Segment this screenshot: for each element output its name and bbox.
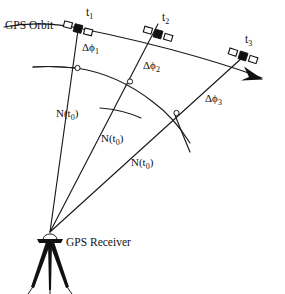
diagram-canvas: GPS Orbit t1 t2 t3 Δϕ1 Δϕ2 Δϕ3 N(t0) N(t…: [0, 0, 285, 294]
phase-label-1: Δϕ1: [82, 41, 99, 56]
gps-receiver-label: GPS Receiver: [66, 236, 131, 248]
range-ray-2: [50, 24, 158, 232]
wavefront-arc-1: [33, 66, 76, 68]
intersection-node-2: [127, 79, 132, 84]
intersection-node-1: [75, 65, 80, 70]
range-label-3: N(t0): [131, 156, 154, 171]
phase-label-3: Δϕ3: [205, 92, 222, 107]
wavefront-arc-2-tail: [100, 108, 141, 118]
wavefront-arc-3-tail: [175, 115, 190, 152]
satellite-icon-t3: [228, 48, 258, 64]
gps-orbit-arc: [4, 24, 262, 78]
satellite-icon-t2: [143, 26, 173, 41]
satellite-label-t3: t3: [245, 33, 252, 48]
range-label-2: N(t0): [101, 132, 124, 147]
orbit-direction-arrow-icon: [241, 67, 263, 81]
intersection-node-3: [174, 110, 179, 115]
gps-carrier-phase-diagram: GPS Orbit t1 t2 t3 Δϕ1 Δϕ2 Δϕ3 N(t0) N(t…: [0, 0, 285, 294]
gps-orbit-label: GPS Orbit: [5, 19, 54, 31]
range-label-1: N(t0): [56, 107, 79, 122]
satellite-label-t2: t2: [162, 11, 169, 26]
range-ray-1: [50, 30, 78, 232]
phase-label-2: Δϕ2: [143, 59, 160, 74]
satellite-label-t1: t1: [86, 6, 93, 21]
range-ray-3: [50, 57, 243, 232]
